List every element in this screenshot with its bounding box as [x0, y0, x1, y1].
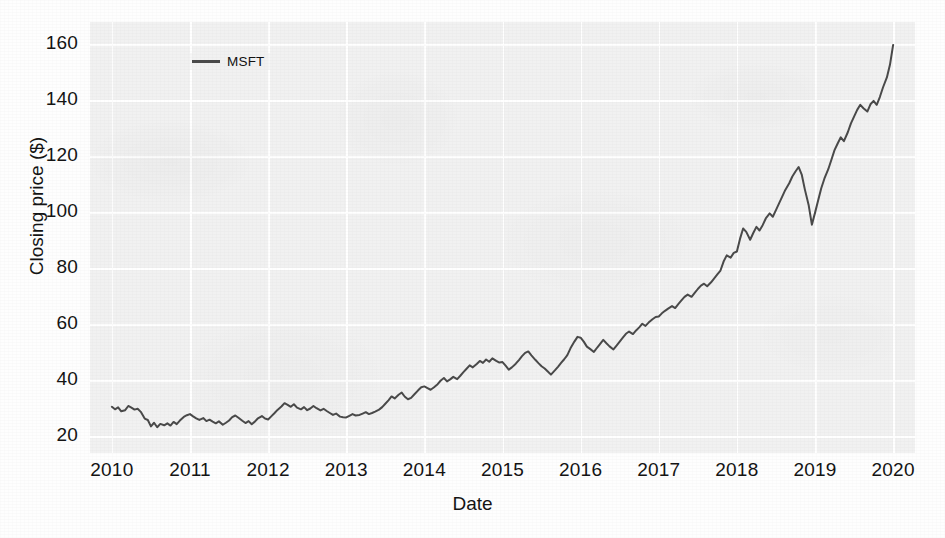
x-axis-label: Date	[0, 493, 945, 515]
figure-canvas: 20406080100120140160 Closing price ($) M…	[0, 0, 945, 538]
x-tick-label: 2017	[614, 459, 704, 481]
x-tick-label: 2020	[848, 459, 938, 481]
x-tick-label: 2015	[458, 459, 548, 481]
legend-swatch-msft	[192, 60, 220, 63]
x-tick-label: 2011	[145, 459, 235, 481]
x-tick-label: 2019	[770, 459, 860, 481]
x-tick-label: 2014	[379, 459, 469, 481]
legend: MSFT	[190, 53, 270, 70]
x-tick-label: 2013	[301, 459, 391, 481]
y-axis-label: Closing price ($)	[26, 6, 48, 406]
y-tick-label: 20	[0, 424, 78, 446]
legend-label-msft: MSFT	[227, 54, 265, 69]
x-tick-label: 2016	[536, 459, 626, 481]
plot-area: MSFT	[90, 22, 915, 453]
series-msft-line	[90, 22, 915, 453]
x-tick-label: 2018	[692, 459, 782, 481]
x-tick-label: 2012	[223, 459, 313, 481]
x-tick-label: 2010	[67, 459, 157, 481]
